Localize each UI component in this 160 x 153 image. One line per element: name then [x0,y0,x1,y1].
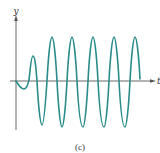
figure-canvas: y t (c) [0,0,160,153]
t-axis-arrow-icon [150,79,156,83]
y-axis-label: y [13,6,20,16]
t-axis-label: t [157,76,160,86]
oscillation-curve [16,37,140,127]
figure-caption: (c) [75,142,85,152]
